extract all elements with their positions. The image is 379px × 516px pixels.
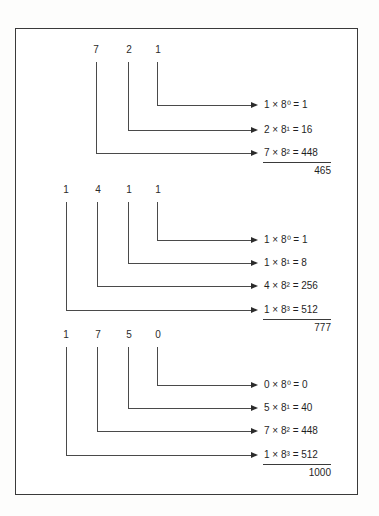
arrowhead-icon — [251, 428, 258, 434]
bracket-hline — [96, 153, 252, 154]
bracket-vline — [157, 202, 158, 241]
arrowhead-icon — [251, 102, 258, 108]
bracket-vline — [128, 347, 129, 409]
octal-digit: 1 — [151, 45, 165, 55]
term-expression: 1 × 8⁰ = 1 — [264, 234, 307, 246]
octal-digit: 7 — [89, 45, 103, 55]
bracket-hline — [128, 408, 252, 409]
term-expression: 1 × 8⁰ = 1 — [264, 99, 307, 111]
decimal-total: 777 — [263, 322, 331, 334]
bracket-vline — [157, 347, 158, 386]
term-expression: 7 × 8² = 448 — [264, 425, 318, 437]
arrowhead-icon — [251, 452, 258, 458]
bracket-hline — [128, 130, 252, 131]
arrowhead-icon — [251, 150, 258, 156]
octal-digit: 0 — [151, 330, 165, 340]
bracket-vline — [128, 62, 129, 131]
arrowhead-icon — [251, 405, 258, 411]
term-expression: 1 × 8¹ = 8 — [264, 257, 307, 269]
octal-digit: 5 — [122, 330, 136, 340]
term-expression: 0 × 8⁰ = 0 — [264, 379, 307, 391]
sum-rule — [263, 319, 331, 320]
arrowhead-icon — [251, 127, 258, 133]
term-expression: 1 × 8³ = 512 — [264, 304, 318, 316]
sum-rule — [263, 162, 331, 163]
arrowhead-icon — [251, 382, 258, 388]
arrowhead-icon — [251, 260, 258, 266]
bracket-vline — [66, 202, 67, 311]
term-expression: 2 × 8¹ = 16 — [264, 124, 312, 136]
octal-digit: 1 — [59, 185, 73, 195]
decimal-total: 465 — [263, 165, 331, 177]
arrowhead-icon — [251, 237, 258, 243]
octal-digit: 1 — [59, 330, 73, 340]
bracket-vline — [96, 62, 97, 154]
bracket-hline — [66, 455, 252, 456]
bracket-hline — [97, 286, 252, 287]
term-expression: 4 × 8² = 256 — [264, 280, 318, 292]
arrowhead-icon — [251, 283, 258, 289]
bracket-hline — [157, 105, 252, 106]
octal-digit: 7 — [91, 330, 105, 340]
sum-rule — [263, 464, 331, 465]
bracket-vline — [157, 62, 158, 106]
bracket-vline — [97, 347, 98, 432]
bracket-hline — [157, 240, 252, 241]
octal-digit: 1 — [122, 185, 136, 195]
bracket-hline — [128, 263, 252, 264]
bracket-hline — [66, 310, 252, 311]
arrowhead-icon — [251, 307, 258, 313]
term-expression: 5 × 8¹ = 40 — [264, 402, 312, 414]
octal-digit: 2 — [122, 45, 136, 55]
octal-digit: 4 — [91, 185, 105, 195]
term-expression: 7 × 8² = 448 — [264, 147, 318, 159]
octal-digit: 1 — [151, 185, 165, 195]
bracket-hline — [97, 431, 252, 432]
bracket-vline — [128, 202, 129, 264]
decimal-total: 1000 — [263, 467, 331, 479]
bracket-hline — [157, 385, 252, 386]
bracket-vline — [97, 202, 98, 287]
term-expression: 1 × 8³ = 512 — [264, 449, 318, 461]
bracket-vline — [66, 347, 67, 456]
